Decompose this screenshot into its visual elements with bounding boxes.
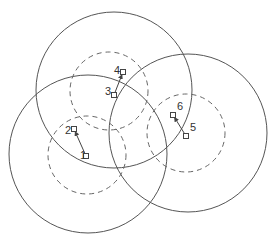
node-5: 5 bbox=[184, 121, 197, 139]
node-label: 1 bbox=[80, 149, 86, 161]
node-4: 4 bbox=[114, 64, 126, 76]
node-label: 4 bbox=[114, 64, 120, 76]
node-2: 2 bbox=[65, 124, 77, 136]
node-3: 3 bbox=[105, 85, 117, 98]
node-label: 2 bbox=[65, 124, 71, 136]
outer-circle-top bbox=[36, 12, 192, 168]
node-label: 6 bbox=[177, 100, 183, 112]
node-label: 3 bbox=[105, 85, 111, 97]
node-label: 5 bbox=[190, 121, 196, 133]
node-square-icon bbox=[171, 113, 176, 118]
node-6: 6 bbox=[171, 100, 184, 118]
node-square-icon bbox=[72, 127, 77, 132]
node-square-icon bbox=[121, 70, 126, 75]
link-3-4 bbox=[115, 75, 122, 92]
coverage-diagram: 123456 bbox=[0, 0, 274, 243]
node-square-icon bbox=[112, 93, 117, 98]
node-square-icon bbox=[184, 134, 189, 139]
node-1: 1 bbox=[80, 149, 89, 161]
outer-range-circles bbox=[9, 12, 267, 233]
